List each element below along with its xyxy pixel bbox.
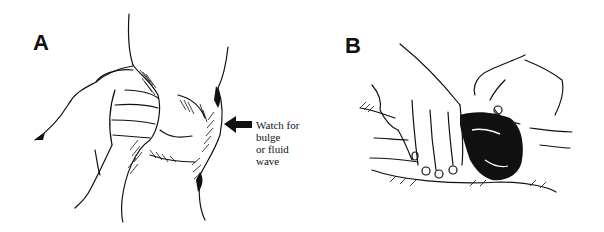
annotation-line-1: Watch for bulge [256, 119, 300, 143]
panel-label-b: B [345, 33, 361, 59]
annotation-text: Watch for bulge or fluid wave [256, 119, 300, 167]
panel-b: B [300, 0, 604, 232]
knee-shadow [460, 112, 523, 180]
annotation-line-2: or fluid wave [256, 143, 300, 167]
arrow-left-icon [224, 116, 252, 133]
panel-a: A Watch for bulge or fluid wave [0, 0, 300, 232]
panel-label-a: A [33, 30, 49, 56]
